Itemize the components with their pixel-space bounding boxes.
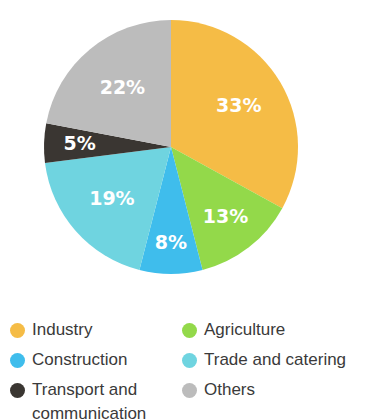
legend-item[interactable]: Transport andcommunication — [10, 378, 180, 408]
pie-slice-value-label: 8% — [155, 231, 187, 253]
legend-color-swatch-icon — [10, 353, 25, 368]
legend-item[interactable]: Construction — [10, 348, 180, 378]
legend-item-label: Agriculture — [204, 318, 285, 342]
legend-column-left: IndustryConstructionTransport andcommuni… — [10, 318, 180, 408]
legend-item-label-line2: communication — [32, 402, 146, 420]
legend-color-swatch-icon — [182, 353, 197, 368]
legend-color-swatch-icon — [182, 383, 197, 398]
legend-color-swatch-icon — [10, 323, 25, 338]
legend-item[interactable]: Agriculture — [182, 318, 366, 348]
legend-item[interactable]: Others — [182, 378, 366, 408]
pie-chart-svg: 33%13%8%19%5%22% — [0, 0, 366, 300]
chart-legend: IndustryConstructionTransport andcommuni… — [0, 300, 366, 420]
legend-item[interactable]: Industry — [10, 318, 180, 348]
pie-slice-value-label: 19% — [89, 187, 134, 209]
legend-item-label: Industry — [32, 318, 92, 342]
legend-color-swatch-icon — [10, 383, 25, 398]
pie-chart: 33%13%8%19%5%22% — [0, 0, 366, 300]
legend-item-label: Transport andcommunication — [32, 378, 146, 420]
legend-column-right: AgricultureTrade and cateringOthers — [182, 318, 366, 408]
pie-slice-value-label: 13% — [203, 205, 248, 227]
legend-item-label: Others — [204, 378, 255, 402]
pie-slice-value-label: 5% — [63, 132, 95, 154]
pie-slice-value-label: 22% — [100, 76, 145, 98]
legend-item[interactable]: Trade and catering — [182, 348, 366, 378]
pie-slice-value-label: 33% — [216, 94, 261, 116]
legend-item-label: Trade and catering — [204, 348, 346, 372]
legend-color-swatch-icon — [182, 323, 197, 338]
legend-item-label: Construction — [32, 348, 127, 372]
